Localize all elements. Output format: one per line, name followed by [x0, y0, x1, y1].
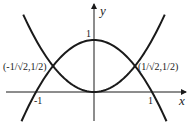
intersection-label-right: (1/√2,1/2)	[138, 61, 178, 73]
y-axis-label: y	[98, 3, 106, 18]
y-tick-1: 1	[86, 28, 91, 39]
x-tick-pos1: 1	[148, 95, 153, 106]
x-tick-neg1: -1	[34, 95, 42, 106]
function-graph: y x 1 -1 1 (-1/√2,1/2) (1/√2,1/2)	[0, 0, 189, 130]
intersection-label-left: (-1/√2,1/2)	[3, 61, 47, 73]
x-axis-label: x	[178, 93, 185, 108]
